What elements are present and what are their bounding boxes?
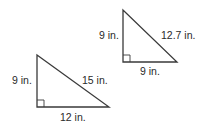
vertical-leg-label: 9 in. <box>99 29 119 41</box>
triangles-diagram: 9 in. 12.7 in. 9 in. 9 in. 15 in. 12 in. <box>0 0 205 129</box>
vertical-leg-label: 9 in. <box>12 74 32 86</box>
horizontal-leg-label: 12 in. <box>60 111 86 123</box>
hypotenuse-label: 12.7 in. <box>161 29 195 41</box>
triangle-bottom-left: 9 in. 15 in. 12 in. <box>12 55 109 123</box>
hypotenuse-label: 15 in. <box>82 74 108 86</box>
horizontal-leg-label: 9 in. <box>140 65 160 77</box>
triangle-top-right: 9 in. 12.7 in. 9 in. <box>99 10 195 77</box>
right-angle-marker-icon <box>123 55 130 62</box>
right-angle-marker-icon <box>37 100 44 107</box>
